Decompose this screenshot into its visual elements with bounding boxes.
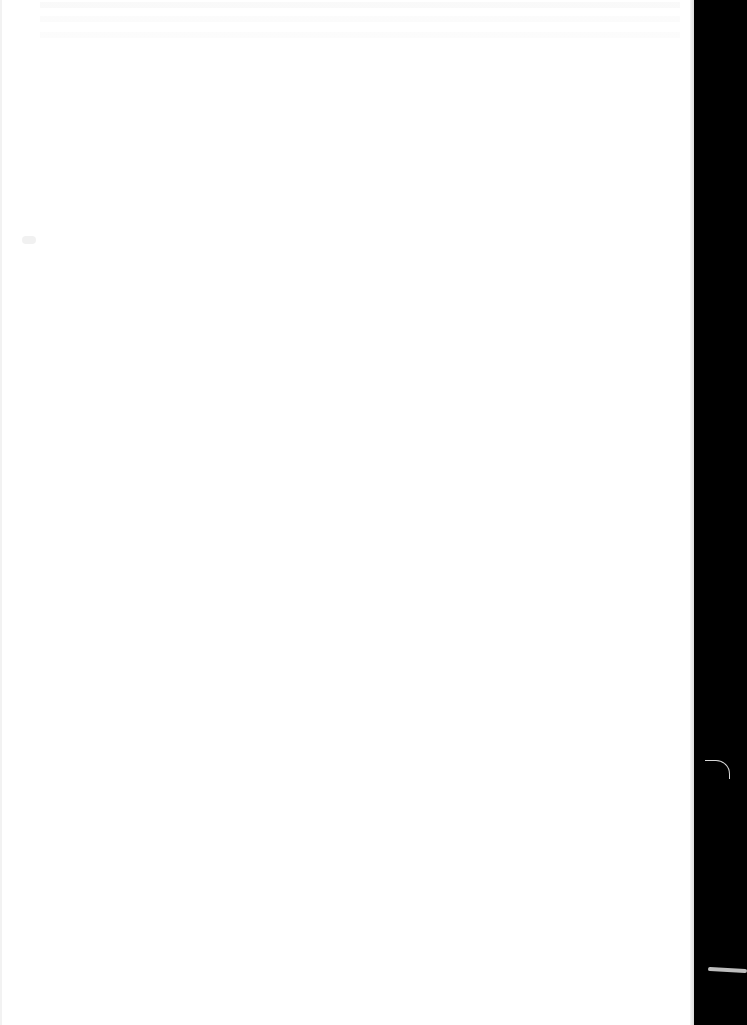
fiber-line-mark xyxy=(708,967,747,973)
page-edge xyxy=(690,0,694,1025)
page-text xyxy=(0,0,1,1)
scanned-image xyxy=(0,0,747,1025)
fiber-curl-mark xyxy=(705,760,730,779)
bleed-through-marks xyxy=(40,2,680,92)
faint-smudge xyxy=(22,236,36,244)
blank-page xyxy=(0,0,694,1025)
